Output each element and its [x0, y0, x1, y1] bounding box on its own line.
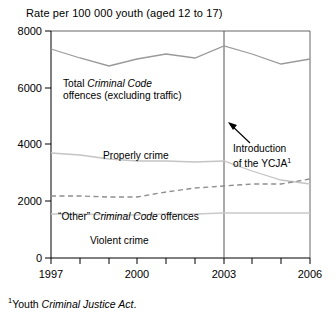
xtick-label-1997: 1997	[29, 268, 73, 280]
ycja-arrow-icon	[228, 122, 250, 143]
xtick-label-2003: 2003	[202, 268, 246, 280]
series-label-total-line2: offences (excluding traffic)	[63, 90, 182, 101]
ytick-label-4000: 4000	[2, 138, 42, 150]
ytick-label-0: 0	[2, 252, 42, 264]
series-line-total	[51, 46, 310, 66]
series-label-other-pre: “Other”	[58, 211, 93, 222]
footnote-text-before: Youth	[12, 298, 41, 310]
series-line-other	[51, 179, 310, 197]
ycja-annotation-line1: Introduction	[233, 143, 286, 154]
chart-figure: Rate per 100 000 youth (aged 12 to 17)	[0, 0, 336, 319]
ycja-annotation-superscript: 1	[287, 157, 291, 164]
footnote-text-italic: Criminal Justice Act	[42, 298, 134, 310]
footnote-text-after: .	[133, 298, 136, 310]
ytick-label-2000: 2000	[2, 195, 42, 207]
series-label-total-line1: Total	[63, 78, 87, 89]
series-label-other-italic: Criminal Code	[93, 211, 158, 222]
ytick-label-6000: 6000	[2, 82, 42, 94]
series-label-violent: Violent crime	[90, 235, 149, 247]
series-label-other-post: offences	[158, 211, 199, 222]
ycja-annotation: Introduction of the YCJA1	[233, 143, 291, 171]
ycja-annotation-line2: of the YCJA	[233, 159, 287, 170]
series-label-other: “Other” Criminal Code offences	[58, 211, 199, 223]
chart-footnote: 1Youth Criminal Justice Act.	[8, 296, 136, 310]
xtick-label-2006: 2006	[288, 268, 332, 280]
xtick-label-2000: 2000	[115, 268, 159, 280]
series-label-total: Total Criminal Code offences (excluding …	[63, 78, 182, 103]
series-label-property: Properly crime	[103, 150, 169, 162]
y-axis-ticks	[45, 31, 51, 258]
series-label-total-italic: Criminal Code	[87, 78, 152, 89]
ytick-label-8000: 8000	[2, 25, 42, 37]
x-axis-ticks	[51, 258, 310, 264]
